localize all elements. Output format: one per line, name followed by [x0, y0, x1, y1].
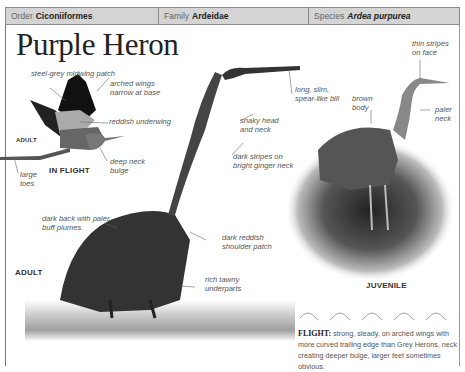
label-adult-flight: ADULT [16, 137, 37, 143]
annotation-reddish-underwing: reddish underwing [109, 118, 171, 127]
annotation-dark-back: dark back with paler, buff plumes [42, 215, 112, 232]
annotation-long-bill: long, slim, spear-like bill [295, 86, 343, 103]
annotation-underparts: rich tawny underparts [205, 276, 251, 293]
annotation-arched-wings: arched wings narrow at base [110, 80, 180, 97]
label-in-flight: IN FLIGHT [49, 166, 90, 175]
flight-description: FLIGHT: strong, steady, on arched wings … [298, 328, 458, 372]
annotation-shoulder-patch: dark reddish shoulder patch [222, 234, 292, 251]
flying-heron-illustration [0, 74, 125, 160]
annotation-paler-neck: paler neck [435, 106, 460, 123]
annotation-deep-neck: deep neck bulge [110, 158, 150, 175]
annotation-large-toes: large toes [20, 171, 42, 188]
annotation-dark-stripes: dark stripes on bright ginger neck [233, 153, 295, 170]
annotation-steel-grey: steel-grey midwing patch [31, 70, 115, 79]
label-adult: ADULT [15, 268, 43, 277]
annotation-brown-body: brown body [352, 95, 382, 112]
label-juvenile: JUVENILE [366, 281, 407, 290]
annotation-thin-stripes: thin stripes on face [412, 40, 452, 57]
annotation-snaky-head: snaky head and neck [240, 117, 290, 134]
wave-divider [298, 306, 458, 320]
flight-heading: FLIGHT: [298, 329, 331, 338]
